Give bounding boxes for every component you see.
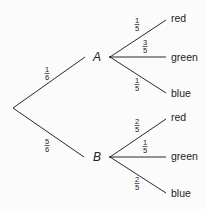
- svg-text:6: 6: [45, 73, 49, 82]
- svg-text:5: 5: [135, 84, 139, 93]
- leaf-b-blue: blue: [171, 187, 191, 199]
- prob-a-green: 3 5: [143, 38, 148, 55]
- node-a-dot: [109, 56, 111, 58]
- svg-text:5: 5: [135, 125, 139, 134]
- prob-b-blue: 2 5: [135, 175, 140, 192]
- leaf-b-green: green: [171, 150, 198, 162]
- node-a-label: A: [92, 50, 101, 64]
- leaf-a-blue: blue: [171, 87, 191, 99]
- leaf-a-red: red: [171, 12, 186, 24]
- svg-text:5: 5: [135, 183, 139, 192]
- node-b-label: B: [93, 150, 101, 164]
- svg-text:5: 5: [135, 24, 139, 33]
- prob-a-red: 1 5: [135, 16, 140, 33]
- prob-b-red: 2 5: [135, 117, 140, 134]
- svg-text:5: 5: [143, 46, 147, 55]
- leaf-a-green: green: [171, 51, 198, 63]
- probability-tree-diagram: 1 6 5 6 A B 1 5 3 5 1 5 2 5 1: [0, 0, 207, 209]
- prob-root-to-b: 5 6: [45, 137, 50, 154]
- prob-a-blue: 1 5: [135, 76, 140, 93]
- svg-text:5: 5: [143, 146, 147, 155]
- leaf-b-red: red: [171, 111, 186, 123]
- svg-text:6: 6: [45, 145, 49, 154]
- node-b-dot: [109, 156, 111, 158]
- prob-root-to-a: 1 6: [45, 65, 50, 82]
- prob-b-green: 1 5: [143, 138, 148, 155]
